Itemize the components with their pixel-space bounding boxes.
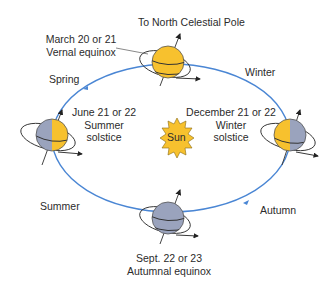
earth-vernal-equinox-icon	[116, 34, 200, 86]
summer-name-2: solstice	[66, 131, 142, 144]
sun-label: Sun	[167, 131, 186, 144]
season-spring-label: Spring	[49, 73, 79, 86]
winter-date: December 21 or 22	[183, 106, 279, 119]
summer-name: Summer	[66, 119, 142, 132]
summer-solstice-label: June 21 or 22 Summer solstice	[66, 106, 142, 144]
earth-orbit-diagram: To North Celestial Pole March 20 or 21 V…	[0, 0, 336, 294]
winter-name-2: solstice	[183, 131, 279, 144]
orbit-arrow-autumn	[243, 200, 249, 205]
season-autumn-label: Autumn	[260, 204, 296, 217]
north-celestial-pole-label: To North Celestial Pole	[138, 16, 245, 29]
vernal-name: Vernal equinox	[44, 46, 118, 59]
vernal-date: March 20 or 21	[44, 33, 118, 46]
winter-solstice-label: December 21 or 22 Winter solstice	[183, 106, 279, 144]
season-winter-label: Winter	[245, 66, 275, 79]
vernal-equinox-label: March 20 or 21 Vernal equinox	[44, 33, 118, 58]
autumnal-date: Sept. 22 or 23	[120, 252, 218, 265]
autumnal-name: Autumnal equinox	[120, 265, 218, 278]
winter-name: Winter	[183, 119, 279, 132]
earth-autumnal-equinox-icon	[137, 190, 198, 244]
season-summer-label: Summer	[40, 200, 80, 213]
summer-date: June 21 or 22	[66, 106, 142, 119]
autumnal-equinox-label: Sept. 22 or 23 Autumnal equinox	[120, 252, 218, 277]
